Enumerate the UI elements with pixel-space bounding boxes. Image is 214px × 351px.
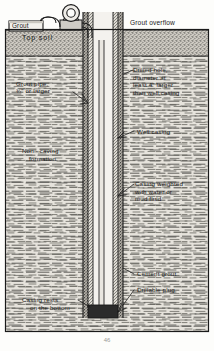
- label-casing-weighted-line1: Casing weighted: [135, 180, 183, 187]
- label-non-caving-line2: formation: [29, 155, 56, 162]
- label-grout-overflow: Grout overflow: [130, 19, 175, 26]
- label-casing-rests-line2: on the bottom: [30, 304, 70, 311]
- label-well-casing: Well casing: [137, 128, 170, 135]
- label-drilled-hole-line3: least 4" larger: [133, 81, 173, 88]
- label-casing-weighted-line3: mud fluid: [135, 195, 161, 202]
- label-grout-pipe-line2: ¾" or larger: [16, 87, 50, 94]
- label-drillable-plug: Drillable plug: [137, 286, 175, 293]
- drillable-plug: [88, 305, 118, 318]
- label-grout-tank: Grout: [12, 22, 29, 29]
- pump-icon: [60, 5, 82, 30]
- label-non-caving-line1: Non - caving: [22, 147, 59, 154]
- label-drilled-hole-line2: diameter at: [133, 74, 166, 81]
- label-drilled-hole-line4: than well casing: [133, 89, 179, 96]
- figure-caption: 46: [0, 337, 214, 343]
- label-casing-weighted-line2: with water or: [135, 188, 172, 195]
- label-drilled-hole-line1: Drilled hole,: [133, 66, 168, 73]
- label-casing-rests-line1: Casing rests: [22, 296, 58, 303]
- label-top-soil: Top soil: [22, 34, 53, 41]
- label-cement-grout: Cement grout: [137, 270, 176, 277]
- grout-pipe: [99, 40, 104, 306]
